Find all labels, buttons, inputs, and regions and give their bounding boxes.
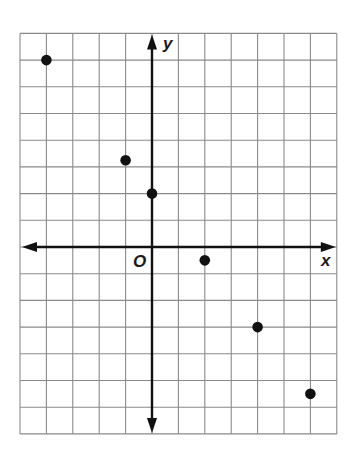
data-point — [252, 322, 263, 333]
data-point — [200, 255, 211, 266]
grid-lines — [20, 33, 337, 434]
data-point — [305, 389, 316, 400]
y-axis-arrow-down-icon — [147, 418, 157, 433]
data-point — [147, 188, 158, 199]
y-axis-arrow-up-icon — [147, 34, 157, 49]
data-point — [41, 55, 52, 66]
y-axis-label: y — [162, 34, 174, 53]
x-axis-arrow-left-icon — [22, 242, 37, 252]
x-axis-label: x — [320, 251, 332, 270]
data-point — [120, 155, 131, 166]
origin-label: O — [133, 252, 146, 271]
coordinate-plane: x y O — [0, 0, 354, 463]
